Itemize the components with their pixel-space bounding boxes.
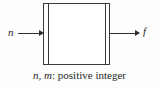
figure-caption: n, m: positive integer bbox=[0, 69, 159, 82]
input-arrow-shaft bbox=[18, 33, 40, 34]
input-arrow-icon bbox=[18, 29, 44, 39]
caption-variables: n, m bbox=[33, 69, 52, 81]
output-arrow-icon bbox=[110, 29, 140, 39]
block-right-inner-rule bbox=[105, 4, 106, 64]
input-signal-label: n bbox=[8, 27, 14, 38]
input-arrow-head bbox=[39, 30, 44, 36]
block-left-inner-rule bbox=[48, 4, 49, 64]
caption-description: positive integer bbox=[58, 69, 126, 81]
output-signal-label: f bbox=[143, 26, 146, 37]
caption-separator: : bbox=[52, 69, 55, 81]
output-arrow-head bbox=[135, 30, 140, 36]
output-arrow-shaft bbox=[110, 33, 136, 34]
processing-block bbox=[43, 3, 110, 65]
block-diagram-figure: n f n, m: positive integer bbox=[0, 0, 159, 91]
